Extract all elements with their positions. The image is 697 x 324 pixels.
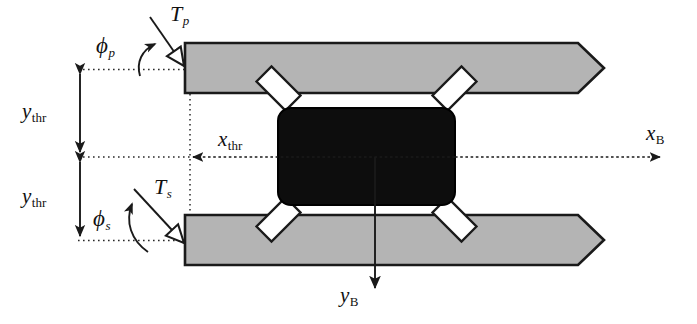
angle-primary-arc xyxy=(139,44,155,76)
angle-secondary-label: ϕs xyxy=(93,207,110,232)
y-thruster-label-bottom: ythr xyxy=(22,186,46,209)
x-body-axis-symbol: x xyxy=(646,121,655,145)
y-thruster-top-subscript: thr xyxy=(32,110,46,125)
thrust-secondary-label: Ts xyxy=(154,176,172,200)
y-body-axis-symbol: y xyxy=(340,283,349,307)
y-thruster-label-top: ythr xyxy=(22,101,46,124)
thrust-primary-symbol: T xyxy=(170,1,182,26)
angle-secondary-subscript: s xyxy=(105,218,110,233)
thrust-primary-subscript: p xyxy=(183,13,190,28)
angle-primary-label: ϕp xyxy=(96,34,115,59)
thruster-geometry-diagram: Tp ϕp Ts ϕs ythr ythr xthr xB yB xyxy=(0,0,697,324)
thrust-secondary-subscript: s xyxy=(167,186,172,201)
x-thruster-subscript: thr xyxy=(228,138,242,153)
thrust-primary-label: Tp xyxy=(170,3,189,27)
angle-secondary-arc xyxy=(129,204,148,252)
y-thruster-bottom-symbol: y xyxy=(22,184,31,208)
x-thruster-label: xthr xyxy=(218,129,242,152)
x-body-axis-label: xB xyxy=(646,123,665,146)
thrust-secondary-symbol: T xyxy=(154,174,166,199)
top-thruster-bar xyxy=(185,43,604,93)
y-thruster-bottom-subscript: thr xyxy=(32,195,46,210)
y-thruster-top-symbol: y xyxy=(22,99,31,123)
bottom-thruster-bar xyxy=(185,215,604,265)
angle-primary-symbol: ϕ xyxy=(96,33,108,58)
y-body-axis-label: yB xyxy=(340,285,359,308)
y-body-axis-subscript: B xyxy=(350,294,359,309)
x-body-axis-subscript: B xyxy=(656,132,665,147)
angle-secondary-symbol: ϕ xyxy=(93,206,105,231)
x-thruster-symbol: x xyxy=(218,127,227,151)
angle-primary-subscript: p xyxy=(108,45,115,60)
